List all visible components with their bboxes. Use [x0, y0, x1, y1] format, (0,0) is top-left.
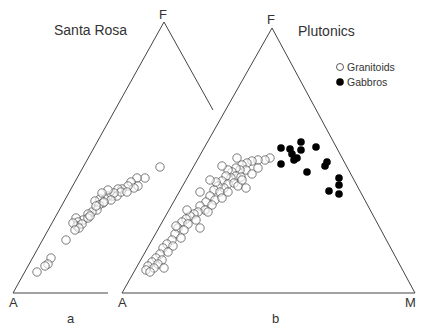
open-point [172, 222, 180, 230]
open-point [164, 248, 172, 256]
gabbro-point [303, 168, 311, 176]
open-point [218, 162, 226, 170]
gabbro-point [325, 187, 333, 195]
open-point [71, 226, 79, 234]
open-point [180, 226, 188, 234]
granitoid-points [142, 154, 274, 276]
vertex-label-m-b: M [405, 295, 416, 310]
open-point [33, 268, 41, 276]
gabbro-point [288, 150, 296, 158]
open-point [218, 194, 226, 202]
vertex-label-f-a: F [159, 7, 167, 22]
vertex-label-f-b: F [267, 12, 275, 27]
open-point [62, 236, 70, 244]
open-point [160, 264, 168, 272]
legend-open-circle-icon [337, 64, 344, 71]
open-point [233, 154, 241, 162]
open-point [86, 212, 94, 220]
panel-b-caption: b [272, 311, 279, 326]
gabbro-point [335, 174, 343, 182]
open-point [192, 216, 200, 224]
open-point [177, 234, 185, 242]
vertex-label-a-b: A [118, 295, 127, 310]
legend-granitoids-label: Granitoids [347, 61, 395, 73]
legend-filled-circle-icon [336, 78, 344, 86]
open-point [204, 208, 212, 216]
gabbro-point [297, 138, 305, 146]
open-point [196, 224, 204, 232]
panel-a-triangle [13, 22, 213, 293]
gabbro-point [323, 158, 331, 166]
legend-gabbros-label: Gabbros [347, 76, 387, 88]
gabbro-point [277, 144, 285, 152]
vertex-label-a-a: A [9, 295, 18, 310]
panel-a-title: Santa Rosa [54, 22, 127, 38]
open-point [146, 268, 154, 276]
open-point [254, 164, 262, 172]
gabbro-point [335, 190, 343, 198]
open-point [206, 176, 214, 184]
gabbro-point [277, 160, 285, 168]
open-point [242, 184, 250, 192]
legend: Granitoids Gabbros [336, 61, 395, 88]
open-point [123, 188, 131, 196]
open-point [141, 174, 149, 182]
open-point [98, 189, 106, 197]
open-point [183, 206, 191, 214]
gabbro-point [335, 181, 343, 189]
gabbro-point [312, 143, 320, 151]
open-point [196, 188, 204, 196]
open-point [92, 202, 100, 210]
afm-ternary-figure: Santa Rosa Plutonics F A F A M a b Grani… [0, 0, 425, 328]
santa-rosa-points [33, 163, 164, 276]
open-point [41, 262, 49, 270]
panel-b-title: Plutonics [298, 23, 355, 39]
gabbro-points [277, 138, 343, 198]
gabbro-point [297, 146, 305, 154]
panel-a-caption: a [67, 311, 75, 326]
open-point [156, 163, 164, 171]
open-point [238, 176, 246, 184]
open-point [100, 198, 108, 206]
